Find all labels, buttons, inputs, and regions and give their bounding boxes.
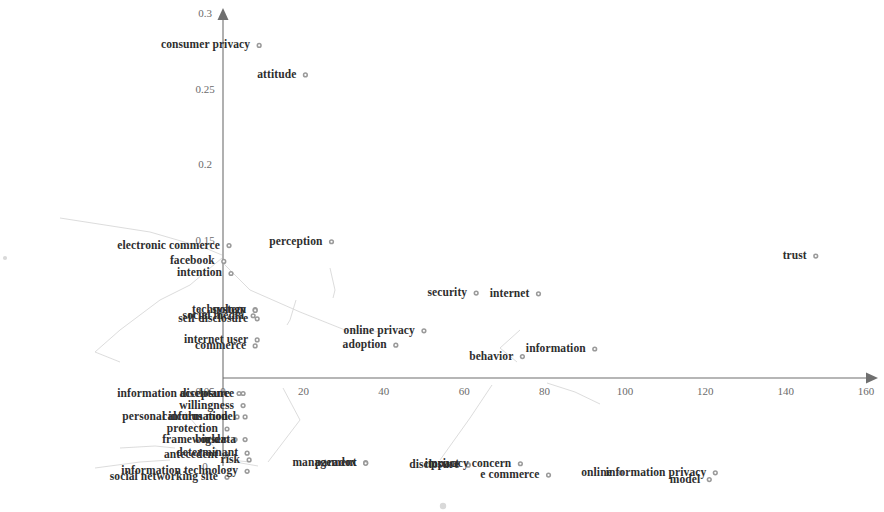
data-point-label: self disclosure bbox=[178, 313, 248, 325]
data-point-label: personal information bbox=[122, 411, 228, 423]
data-point-ring bbox=[714, 472, 716, 474]
plot-canvas bbox=[0, 0, 884, 512]
x-tick-label: 80 bbox=[539, 386, 550, 397]
data-point-label: antecedent bbox=[164, 449, 218, 461]
x-tick-label: 100 bbox=[617, 386, 634, 397]
data-point-ring bbox=[256, 339, 258, 341]
data-point-ring bbox=[304, 74, 306, 76]
data-point-ring bbox=[330, 241, 332, 243]
label-leader-line bbox=[268, 388, 300, 462]
label-leader-line bbox=[547, 383, 600, 404]
data-point-ring bbox=[547, 474, 549, 476]
scatter-plot-figure: 02040608010012014016000.050.10.150.20.25… bbox=[0, 0, 884, 512]
data-point-ring bbox=[254, 309, 256, 311]
x-tick-label: 40 bbox=[378, 386, 389, 397]
data-point-ring bbox=[246, 470, 248, 472]
data-point-label: social networking site bbox=[110, 472, 218, 484]
data-point-ring bbox=[365, 462, 367, 464]
data-point-label: security bbox=[427, 287, 467, 299]
x-tick-label: 20 bbox=[298, 386, 309, 397]
data-point-ring bbox=[423, 330, 425, 332]
data-point-label: perception bbox=[269, 236, 322, 248]
connector-lines bbox=[60, 218, 600, 468]
data-point-ring bbox=[246, 452, 248, 454]
data-point-ring bbox=[238, 392, 240, 394]
data-point-label: management bbox=[292, 458, 356, 470]
data-point-label: commerce bbox=[195, 340, 246, 352]
data-point-ring bbox=[395, 344, 397, 346]
data-point-ring bbox=[258, 44, 260, 46]
stray-mark-left-edge bbox=[3, 256, 7, 260]
data-point-ring bbox=[248, 459, 250, 461]
data-point-ring bbox=[223, 260, 225, 262]
stray-mark-bottom bbox=[440, 503, 446, 509]
data-point-label: e commerce bbox=[480, 469, 539, 481]
data-point-ring bbox=[256, 318, 258, 320]
data-point-ring bbox=[242, 405, 244, 407]
data-point-ring bbox=[244, 438, 246, 440]
data-point-label: behavior bbox=[469, 351, 513, 363]
data-point-ring bbox=[244, 416, 246, 418]
data-point-label: intention bbox=[177, 268, 222, 280]
data-point-ring bbox=[708, 478, 710, 480]
data-point-ring bbox=[594, 348, 596, 350]
data-point-ring bbox=[252, 315, 254, 317]
data-point-label: trust bbox=[783, 250, 807, 262]
label-leader-line bbox=[330, 268, 335, 298]
data-point-ring bbox=[815, 255, 817, 257]
y-tick-label: 0.3 bbox=[198, 8, 212, 19]
data-point-ring bbox=[519, 463, 521, 465]
data-point-ring bbox=[537, 293, 539, 295]
data-point-ring bbox=[228, 244, 230, 246]
data-point-ring bbox=[242, 392, 244, 394]
data-point-ring bbox=[254, 345, 256, 347]
data-point-label: adoption bbox=[343, 339, 387, 351]
data-point-ring bbox=[475, 292, 477, 294]
x-tick-label: 140 bbox=[777, 386, 794, 397]
data-point-label: information disclosure bbox=[117, 388, 230, 400]
x-tick-label: 60 bbox=[459, 386, 470, 397]
data-point-ring bbox=[236, 416, 238, 418]
data-point-label: online privacy bbox=[344, 325, 415, 337]
x-tick-label: 120 bbox=[697, 386, 714, 397]
data-point-ring bbox=[521, 355, 523, 357]
data-point-label: internet bbox=[490, 288, 530, 300]
data-point-label: framework bbox=[162, 434, 218, 446]
data-point-ring bbox=[230, 272, 232, 274]
y-tick-label: 0.25 bbox=[195, 83, 214, 94]
data-point-label: model bbox=[670, 474, 701, 486]
x-axis-arrowhead bbox=[866, 373, 878, 384]
data-point-label: electronic commerce bbox=[117, 240, 220, 252]
label-leader-line bbox=[287, 300, 296, 325]
y-axis-arrowhead bbox=[218, 8, 229, 20]
data-point-markers bbox=[221, 43, 818, 482]
data-point-label: facebook bbox=[170, 256, 215, 268]
y-tick-label: 0.2 bbox=[198, 159, 212, 170]
x-tick-label: 160 bbox=[858, 386, 875, 397]
data-point-label: attitude bbox=[257, 69, 296, 81]
data-point-ring bbox=[226, 428, 228, 430]
data-point-label: information bbox=[526, 343, 586, 355]
data-point-label: consumer privacy bbox=[161, 40, 250, 52]
